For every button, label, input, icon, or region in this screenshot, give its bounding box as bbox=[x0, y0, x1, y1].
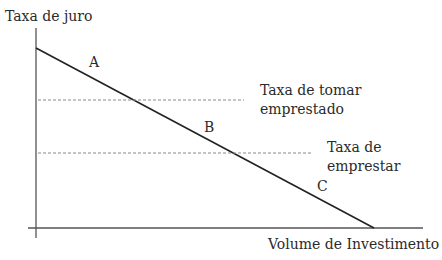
borrowing-rate-label-line2: emprestado bbox=[260, 100, 344, 118]
lending-rate-label-line2: emprestar bbox=[327, 157, 400, 175]
point-b-label: B bbox=[204, 118, 214, 136]
lending-rate-label-line1: Taxa de bbox=[327, 138, 382, 156]
borrowing-rate-label-line1: Taxa de tomar bbox=[260, 81, 361, 99]
diagram-canvas bbox=[0, 0, 442, 260]
x-axis-label: Volume de Investimento bbox=[268, 235, 439, 253]
y-axis-label: Taxa de juro bbox=[5, 7, 92, 25]
point-c-label: C bbox=[317, 177, 328, 195]
investment-demand-curve bbox=[36, 48, 374, 228]
point-a-label: A bbox=[89, 53, 99, 71]
